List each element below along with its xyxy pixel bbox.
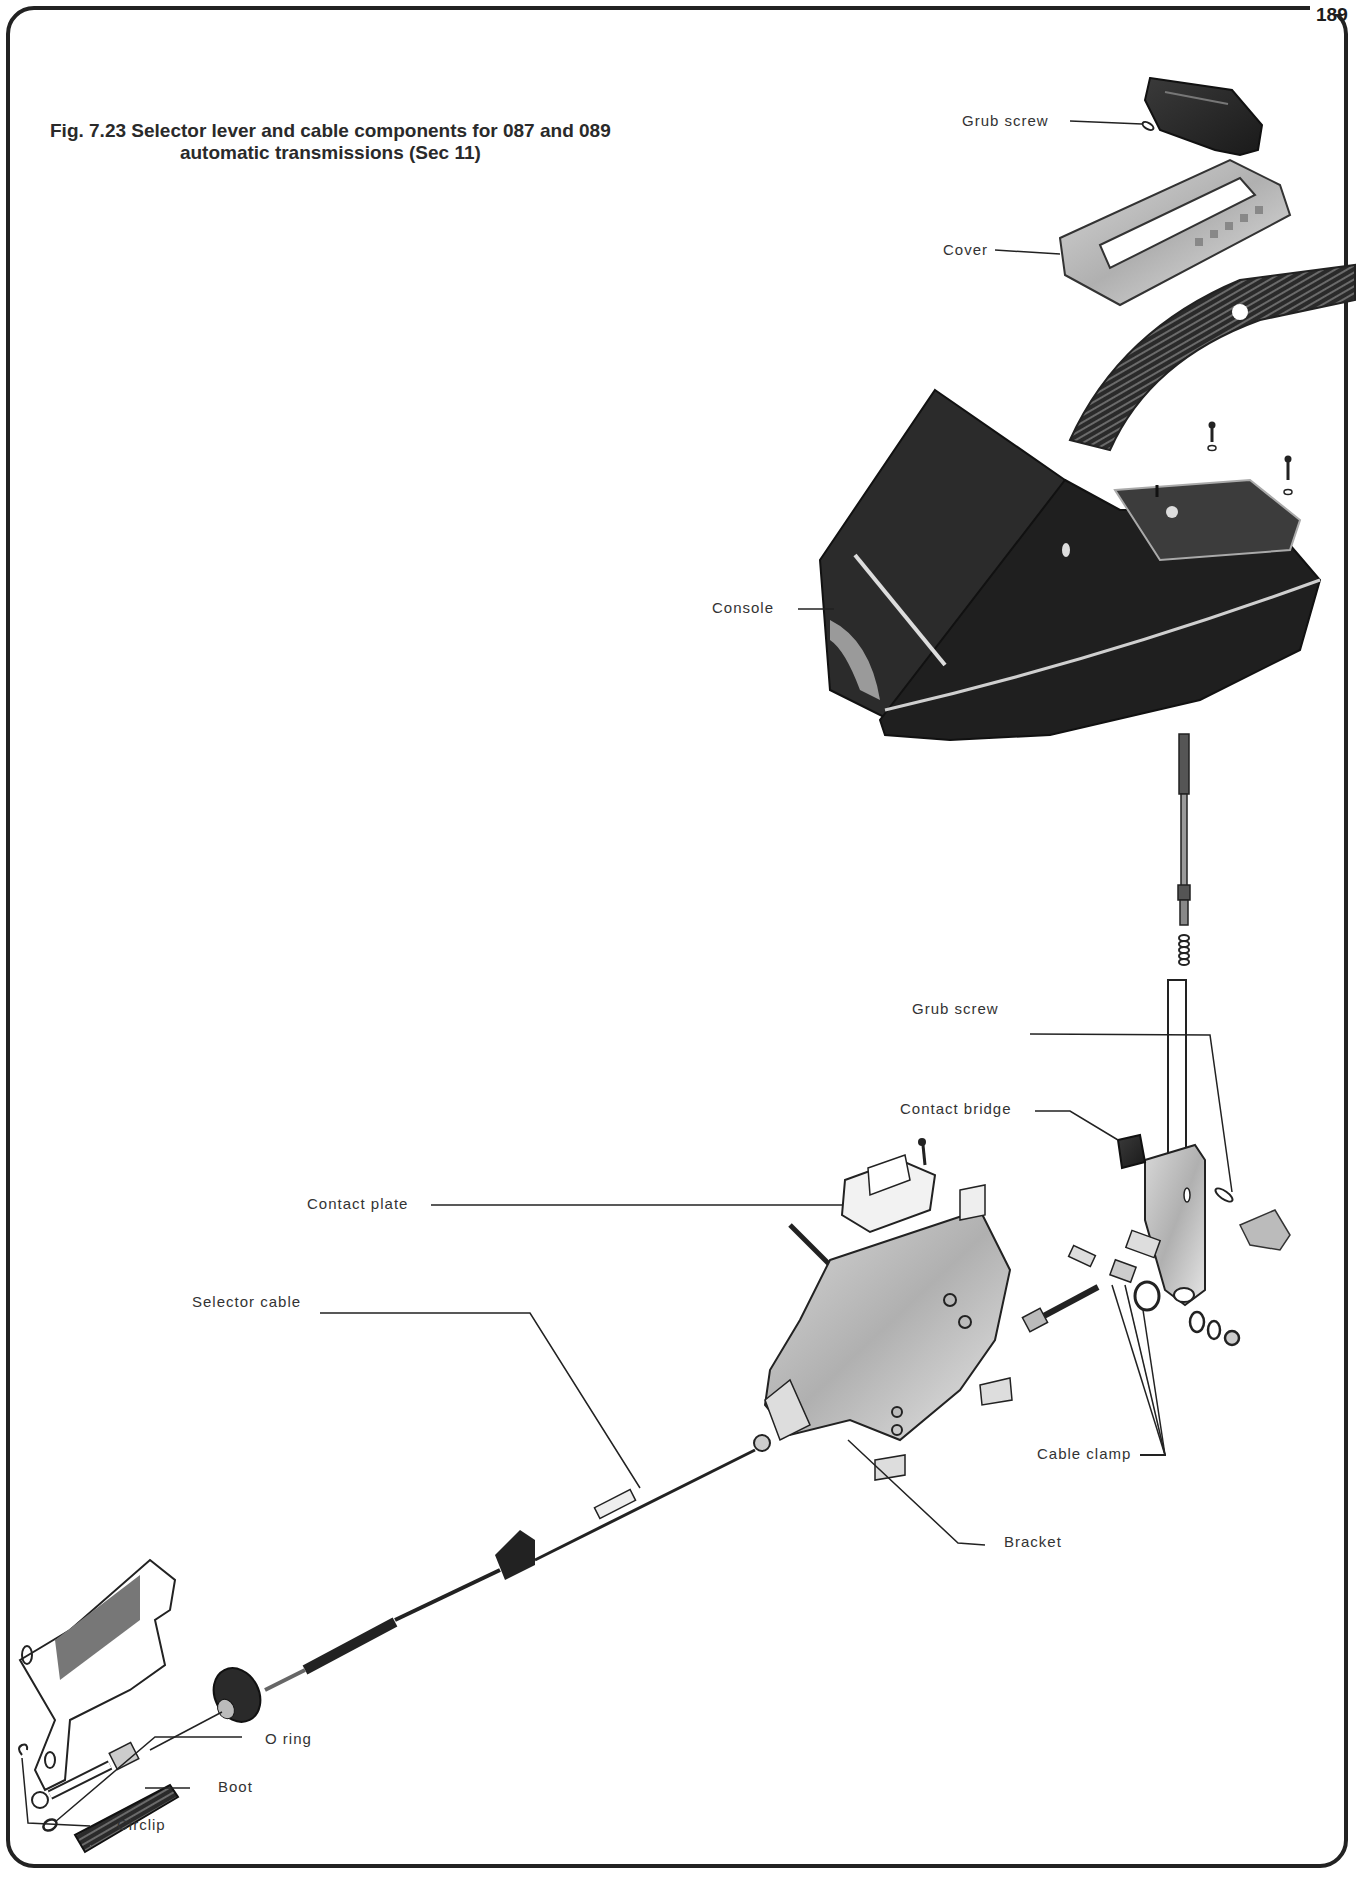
label-contact-bridge: Contact bridge bbox=[900, 1100, 1012, 1117]
grub-screw-top bbox=[1070, 120, 1155, 131]
console bbox=[798, 390, 1320, 740]
label-selector-cable: Selector cable bbox=[192, 1293, 301, 1310]
selector-lever-shaft bbox=[1178, 734, 1190, 925]
contact-bridge bbox=[1035, 1111, 1145, 1168]
exploded-diagram bbox=[0, 0, 1361, 1879]
bracket bbox=[754, 1185, 1012, 1545]
selector-lever-handle bbox=[1145, 78, 1262, 155]
label-contact-plate: Contact plate bbox=[307, 1195, 408, 1212]
washers bbox=[1190, 1312, 1239, 1345]
label-grub-screw-lower: Grub screw bbox=[912, 1000, 999, 1017]
label-circlip: Circlip bbox=[117, 1816, 166, 1833]
label-boot: Boot bbox=[218, 1778, 253, 1795]
cable-mounting-bracket bbox=[20, 1560, 175, 1790]
spring bbox=[1179, 935, 1189, 965]
selector-fork bbox=[1240, 1210, 1290, 1250]
contact-plate bbox=[431, 1138, 935, 1265]
label-grub-screw-top: Grub screw bbox=[962, 112, 1049, 129]
cable-clamp bbox=[1022, 1230, 1166, 1455]
label-bracket: Bracket bbox=[1004, 1533, 1062, 1550]
selector-cable bbox=[150, 1313, 755, 1750]
label-console: Console bbox=[712, 599, 774, 616]
label-cable-clamp: Cable clamp bbox=[1037, 1445, 1131, 1462]
label-o-ring: O ring bbox=[265, 1730, 312, 1747]
label-cover: Cover bbox=[943, 241, 988, 258]
